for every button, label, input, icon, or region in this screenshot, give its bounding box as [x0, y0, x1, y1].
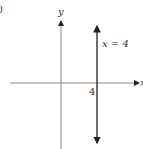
x-axis-label: x	[140, 77, 143, 88]
tick-label-4: 4	[89, 86, 95, 97]
y-axis-label: y	[58, 6, 64, 17]
line-label: x = 4	[102, 38, 129, 49]
coordinate-plane	[0, 0, 143, 149]
